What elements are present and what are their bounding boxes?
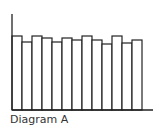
bars-group [12, 36, 142, 110]
diagram-caption: Diagram A [10, 113, 68, 126]
bar-1 [12, 36, 22, 110]
bar-9 [92, 40, 102, 110]
bar-7 [72, 40, 82, 110]
bar-3 [32, 36, 42, 110]
bar-6 [62, 38, 72, 110]
bar-11 [112, 36, 122, 110]
bar-10 [102, 44, 112, 110]
bar-8 [82, 36, 92, 110]
bar-13 [132, 40, 142, 110]
bar-chart [0, 0, 159, 130]
bar-5 [52, 42, 62, 110]
bar-2 [22, 42, 32, 110]
bar-12 [122, 43, 132, 110]
bar-4 [42, 38, 52, 110]
